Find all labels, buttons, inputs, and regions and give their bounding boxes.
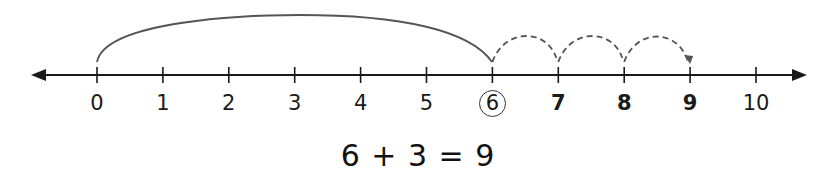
tick-label-7: 7 <box>538 90 578 116</box>
hop-arc <box>558 36 622 62</box>
tick-label-9: 9 <box>670 90 710 116</box>
tick-label-2: 2 <box>209 90 249 116</box>
right-arrow-icon <box>792 69 807 81</box>
equation: 6 + 3 = 9 <box>0 138 836 173</box>
big-jump-arc <box>97 15 492 62</box>
tick-label-0: 0 <box>77 90 117 116</box>
tick-label-3: 3 <box>275 90 315 116</box>
tick-label-1: 1 <box>143 90 183 116</box>
tick-label-8: 8 <box>604 90 644 116</box>
hop-arrowhead-icon <box>684 55 693 64</box>
hop-arc <box>492 36 556 62</box>
tick-label-10: 10 <box>736 90 776 116</box>
tick-label-6: 6 <box>472 90 512 117</box>
circled-start-number: 6 <box>479 90 506 117</box>
left-arrow-icon <box>31 69 46 81</box>
hop-arc <box>624 37 688 63</box>
tick-label-5: 5 <box>407 90 447 116</box>
tick-label-4: 4 <box>341 90 381 116</box>
small-jump-arcs <box>492 36 693 64</box>
